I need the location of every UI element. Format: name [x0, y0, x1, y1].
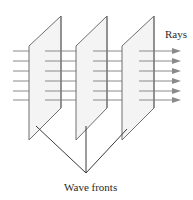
leader-line [86, 129, 127, 173]
wave-front-2 [76, 16, 107, 140]
wave-fronts-diagram: Rays Wave fronts [0, 0, 193, 200]
arrowhead-icon [172, 58, 181, 64]
arrowhead-icon [172, 78, 181, 84]
arrowhead-icon [172, 97, 181, 103]
wave-fronts-label: Wave fronts [64, 181, 117, 193]
arrowhead-icon [172, 68, 181, 74]
arrowhead-icon [172, 48, 181, 54]
rays-label: Rays [165, 28, 187, 40]
wave-front-3 [122, 16, 154, 140]
arrowhead-icon [172, 88, 181, 94]
wave-front-1 [29, 16, 61, 140]
